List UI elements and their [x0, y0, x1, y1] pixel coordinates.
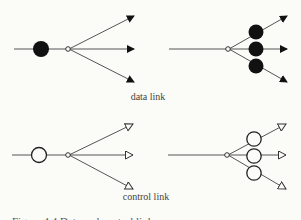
output-link-bottom — [69, 155, 133, 189]
data-node-top — [249, 25, 264, 40]
junction-node — [226, 47, 231, 52]
control-node-top — [247, 132, 261, 146]
link-diagram: data link control link Figure 4.4 Data a… — [0, 0, 301, 220]
junction-node — [66, 153, 71, 158]
control-node-middle — [247, 149, 261, 163]
figure-caption: Figure 4.4 Data and control links — [12, 215, 157, 220]
output-link-top — [69, 16, 134, 49]
control-link-multi — [168, 124, 286, 189]
data-node-bottom — [249, 59, 264, 74]
data-link-single — [14, 16, 134, 82]
junction-node — [225, 153, 230, 158]
control-link-single — [12, 124, 133, 189]
junction-node — [66, 47, 71, 52]
control-link-label: control link — [123, 191, 169, 202]
data-link-label: data link — [131, 91, 166, 102]
control-node-bottom — [247, 166, 261, 180]
output-link-bottom — [69, 49, 134, 82]
output-link-top — [69, 124, 133, 155]
data-node-middle — [249, 42, 264, 57]
control-node — [32, 148, 47, 163]
data-node — [33, 41, 49, 57]
data-link-multi — [169, 16, 287, 82]
